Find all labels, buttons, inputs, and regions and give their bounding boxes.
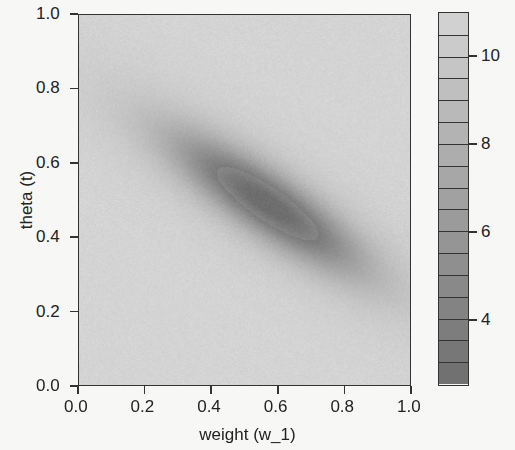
y-tick-label: 0.6 <box>36 153 60 173</box>
x-tick <box>144 386 146 394</box>
y-tick-label: 0.2 <box>36 302 60 322</box>
y-tick <box>70 162 78 164</box>
colorbar-segment <box>439 209 468 231</box>
colorbar-segment <box>439 340 468 362</box>
colorbar-segment <box>439 362 468 384</box>
x-tick-label: 1.0 <box>397 397 421 417</box>
x-tick-label: 0.6 <box>264 397 288 417</box>
colorbar-segment <box>439 166 468 188</box>
colorbar-segment <box>439 100 468 122</box>
y-axis-label: theta (t) <box>17 145 37 255</box>
colorbar <box>438 12 469 386</box>
colorbar-tick-label: 8 <box>481 134 490 154</box>
y-tick-label: 0.8 <box>36 78 60 98</box>
x-tick <box>277 386 279 394</box>
x-tick-label: 0.0 <box>64 397 88 417</box>
heatmap-canvas <box>79 15 410 385</box>
colorbar-tick-label: 10 <box>481 46 500 66</box>
x-tick-label: 0.8 <box>330 397 354 417</box>
colorbar-tick <box>469 231 477 233</box>
colorbar-segment <box>439 13 468 35</box>
y-tick-label: 0.0 <box>36 376 60 396</box>
colorbar-tick-label: 4 <box>481 310 490 330</box>
x-tick-label: 0.2 <box>131 397 155 417</box>
colorbar-segment <box>439 188 468 210</box>
colorbar-segment <box>439 231 468 253</box>
colorbar-tick <box>469 143 477 145</box>
colorbar-tick-label: 6 <box>481 222 490 242</box>
y-tick-label: 0.4 <box>36 227 60 247</box>
y-tick-label: 1.0 <box>36 4 60 24</box>
y-tick <box>70 311 78 313</box>
x-tick <box>410 386 412 394</box>
heatmap-plot-area <box>78 14 411 386</box>
x-tick <box>77 386 79 394</box>
x-tick-label: 0.4 <box>197 397 221 417</box>
y-tick <box>70 236 78 238</box>
colorbar-segment <box>439 144 468 166</box>
colorbar-segment <box>439 275 468 297</box>
colorbar-segment <box>439 319 468 341</box>
colorbar-segment <box>439 57 468 79</box>
y-tick <box>70 13 78 15</box>
colorbar-segment <box>439 78 468 100</box>
colorbar-segment <box>439 253 468 275</box>
y-tick <box>70 385 78 387</box>
x-axis-label: weight (w_1) <box>160 425 335 445</box>
colorbar-tick <box>469 55 477 57</box>
colorbar-tick <box>469 319 477 321</box>
colorbar-segment <box>439 297 468 319</box>
y-tick <box>70 88 78 90</box>
colorbar-segment <box>439 122 468 144</box>
colorbar-segment <box>439 35 468 57</box>
x-tick <box>344 386 346 394</box>
x-tick <box>210 386 212 394</box>
